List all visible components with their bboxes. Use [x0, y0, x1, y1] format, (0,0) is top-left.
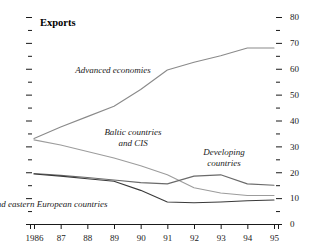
baltic-cis-label-line-1: and CIS — [118, 138, 148, 148]
x-axis-label-91: 91 — [163, 233, 172, 243]
y-axis-label-0: 0 — [290, 219, 295, 229]
x-axis-label-93: 93 — [217, 233, 227, 243]
x-axis-label-89: 89 — [110, 233, 120, 243]
x-axis-label-87: 87 — [57, 233, 67, 243]
y-axis-label-10: 10 — [290, 193, 300, 203]
central-eastern-label: Central and eastern European countries — [0, 199, 108, 209]
developing-countries-label-line-1: countries — [207, 158, 241, 168]
y-axis-label-60: 60 — [290, 64, 300, 74]
y-axis-label-70: 70 — [290, 38, 300, 48]
baltic-cis-label: Baltic countriesand CIS — [104, 127, 162, 148]
developing-countries-label: Developingcountries — [202, 147, 245, 168]
central-eastern-label-line-0: Central and eastern European countries — [0, 199, 108, 209]
baltic-cis-label-line-0: Baltic countries — [104, 127, 162, 137]
y-axis-label-40: 40 — [290, 116, 300, 126]
advanced-economies-label: Advanced economies — [74, 65, 151, 75]
y-axis-label-20: 20 — [290, 168, 300, 178]
x-axis-label-90: 90 — [137, 233, 147, 243]
x-axis-label-95: 95 — [270, 233, 280, 243]
series-line-2 — [34, 174, 274, 186]
x-axis-label-1986: 1986 — [26, 233, 45, 243]
exports-line-chart: Exports010203040506070801986878889909192… — [0, 0, 312, 246]
y-axis-label-50: 50 — [290, 90, 300, 100]
x-axis-label-92: 92 — [190, 233, 199, 243]
chart-title: Exports — [40, 17, 76, 28]
developing-countries-label-line-0: Developing — [202, 147, 245, 157]
series-line-0 — [34, 48, 274, 139]
y-axis-label-30: 30 — [290, 142, 300, 152]
x-axis-label-88: 88 — [83, 233, 93, 243]
x-axis-label-94: 94 — [243, 233, 253, 243]
advanced-economies-label-line-0: Advanced economies — [74, 65, 151, 75]
chart-figure: Exports010203040506070801986878889909192… — [0, 0, 312, 246]
y-axis-label-80: 80 — [290, 12, 300, 22]
